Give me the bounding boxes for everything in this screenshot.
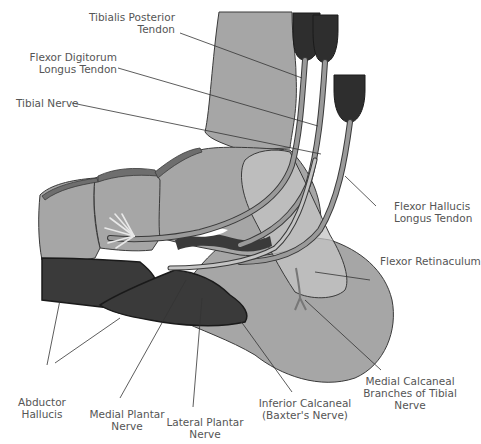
- label-line: Flexor Hallucis: [394, 200, 472, 212]
- label-line: Inferior Calcaneal: [255, 397, 355, 409]
- label-line: Flexor Digitorum: [29, 51, 117, 63]
- label-flexor-retinaculum: Flexor Retinaculum: [380, 255, 481, 267]
- tibia-bone: [205, 12, 296, 150]
- label-tibial-nerve: Tibial Nerve: [16, 97, 79, 109]
- first-metatarsal-bone: [39, 178, 100, 261]
- label-medial-plantar-nerve: Medial Plantar Nerve: [82, 408, 172, 432]
- label-line: Nerve: [82, 420, 172, 432]
- label-medial-calcaneal-branches: Medial Calcaneal Branches of Tibial Nerv…: [355, 375, 465, 411]
- label-line: Medial Calcaneal: [355, 375, 465, 387]
- label-line: Abductor: [14, 396, 70, 408]
- label-lateral-plantar-nerve: Lateral Plantar Nerve: [160, 416, 250, 440]
- label-line: Tibialis Posterior: [89, 11, 175, 23]
- label-flexor-hallucis-longus-tendon: Flexor Hallucis Longus Tendon: [394, 200, 472, 224]
- label-line: Flexor Retinaculum: [380, 255, 481, 267]
- label-abductor-hallucis: Abductor Hallucis: [14, 396, 70, 420]
- label-flexor-digitorum-longus-tendon: Flexor Digitorum Longus Tendon: [29, 51, 117, 75]
- flexor-digitorum-muscle: [313, 15, 338, 62]
- label-line: Longus Tendon: [394, 212, 472, 224]
- label-line: Branches of Tibial: [355, 387, 465, 399]
- label-line: Nerve: [355, 399, 465, 411]
- label-line: Medial Plantar: [82, 408, 172, 420]
- label-line: Lateral Plantar: [160, 416, 250, 428]
- label-line: Longus Tendon: [29, 63, 117, 75]
- label-line: Nerve: [160, 428, 250, 440]
- label-line: Tendon: [89, 23, 175, 35]
- label-tibialis-posterior-tendon: Tibialis Posterior Tendon: [89, 11, 175, 35]
- label-inferior-calcaneal-nerve: Inferior Calcaneal (Baxter's Nerve): [255, 397, 355, 421]
- flexor-hallucis-muscle: [334, 75, 365, 122]
- label-line: Tibial Nerve: [16, 97, 79, 109]
- label-line: Hallucis: [14, 408, 70, 420]
- label-line: (Baxter's Nerve): [255, 409, 355, 421]
